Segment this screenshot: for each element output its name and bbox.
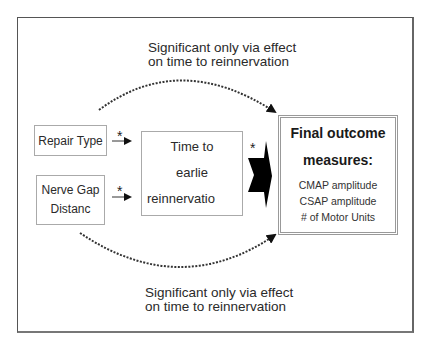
outcome-node: Final outcome measures: CMAP amplitude C… <box>278 115 398 235</box>
mediator-label-line-2: earlie <box>142 160 242 186</box>
outcome-measure: # of Motor Units <box>281 211 395 223</box>
bottom-note: Significant only via effect on time to r… <box>145 286 293 314</box>
outcome-title-line-1: Final outcome <box>281 125 395 141</box>
mediator-label-line-3: reinnervatio <box>142 186 242 212</box>
outcome-measure: CMAP amplitude <box>281 179 395 191</box>
outcome-title-line-2: measures: <box>281 152 395 168</box>
nerve-gap-label-line-1: Nerve Gap <box>37 181 104 200</box>
mediator-significance-marker: * <box>250 140 255 156</box>
top-dotted-arrow <box>99 80 275 112</box>
nerve-gap-label-line-2: Distanc <box>37 200 104 219</box>
bottom-note-line-2: on time to reinnervation <box>145 300 293 314</box>
bottom-note-line-1: Significant only via effect <box>145 286 293 300</box>
top-note-line-2: on time to reinnervation <box>148 55 296 69</box>
repair-type-significance-marker: * <box>117 128 122 144</box>
mediator-node: Time to earlie reinnervatio <box>141 131 243 216</box>
top-note-line-1: Significant only via effect <box>148 41 296 55</box>
repair-type-label: Repair Type <box>35 126 106 156</box>
mediator-label-line-1: Time to <box>142 134 242 160</box>
bottom-dotted-arrow <box>80 233 275 267</box>
nerve-gap-significance-marker: * <box>117 183 122 199</box>
nerve-gap-node: Nerve Gap Distanc <box>36 175 105 225</box>
top-note: Significant only via effect on time to r… <box>148 41 296 69</box>
outcome-measure: CSAP amplitude <box>281 195 395 207</box>
repair-type-node: Repair Type <box>34 125 107 156</box>
